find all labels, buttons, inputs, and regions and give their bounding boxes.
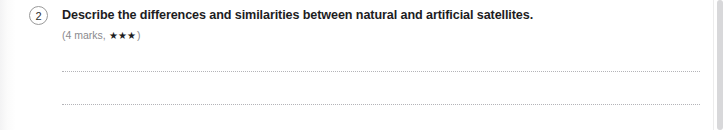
marks-label: (4 marks, [62,29,109,41]
scrollbar-thumb[interactable] [717,0,723,130]
marks-close-paren: ) [137,29,141,41]
answer-line[interactable] [62,70,700,72]
question-meta: (4 marks, ★★★) [62,28,140,43]
question-number-badge: 2 [29,6,48,25]
question-title: Describe the differences and similaritie… [62,7,692,23]
answer-line[interactable] [62,103,700,105]
vertical-scrollbar[interactable] [713,0,724,130]
difficulty-stars-icon: ★★★ [109,30,137,41]
question-block: 2 Describe the differences and similarit… [0,0,700,130]
